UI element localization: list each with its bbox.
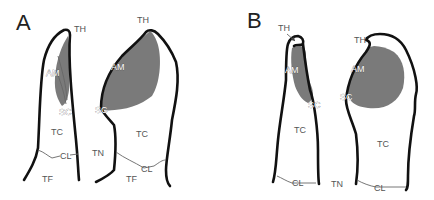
label-sc: SC	[308, 100, 321, 110]
label-tc: TC	[136, 129, 148, 139]
label-tf: TF	[42, 174, 53, 184]
figure: A TH AM SC TC CL TF TN TH AM SC TC CL TF	[0, 0, 434, 200]
label-cl: CL	[60, 151, 72, 161]
label-th: TH	[278, 23, 290, 33]
panel-b-tooth-right: TH AM SC TC CL	[340, 34, 417, 193]
panel-label-b: B	[247, 8, 262, 33]
label-am: AM	[351, 64, 365, 74]
label-tn: TN	[92, 148, 104, 158]
cervical-line	[38, 150, 78, 158]
label-cl: CL	[292, 178, 304, 188]
label-th: TH	[74, 24, 86, 34]
panel-b-tooth-left: TH AM SC TC CL	[273, 23, 321, 188]
label-tc: TC	[294, 125, 306, 135]
label-cl: CL	[141, 164, 153, 174]
label-am: AM	[285, 65, 299, 75]
tooth-diagram: A TH AM SC TC CL TF TN TH AM SC TC CL TF	[0, 0, 434, 200]
label-sc: SC	[95, 105, 108, 115]
panel-b: B TH AM SC TC CL TN TH AM SC TC CL	[247, 8, 417, 193]
panel-a-tooth-right: TH AM SC TC CL TF	[95, 15, 178, 186]
label-th: TH	[137, 15, 149, 25]
label-am: AM	[46, 68, 60, 78]
label-sc: SC	[340, 92, 353, 102]
panel-a: A TH AM SC TC CL TF TN TH AM SC TC CL TF	[16, 10, 178, 186]
shaded-region	[348, 46, 404, 108]
panel-label-a: A	[16, 10, 31, 35]
label-tc: TC	[377, 139, 389, 149]
label-sc: SC	[59, 107, 72, 117]
label-cl: CL	[374, 183, 386, 193]
label-tn: TN	[331, 179, 343, 189]
label-tc: TC	[51, 127, 63, 137]
label-am: AM	[111, 62, 125, 72]
label-tf: TF	[126, 174, 137, 184]
panel-a-tooth-left: TH AM SC TC CL TF	[24, 24, 86, 184]
label-th: TH	[354, 35, 366, 45]
